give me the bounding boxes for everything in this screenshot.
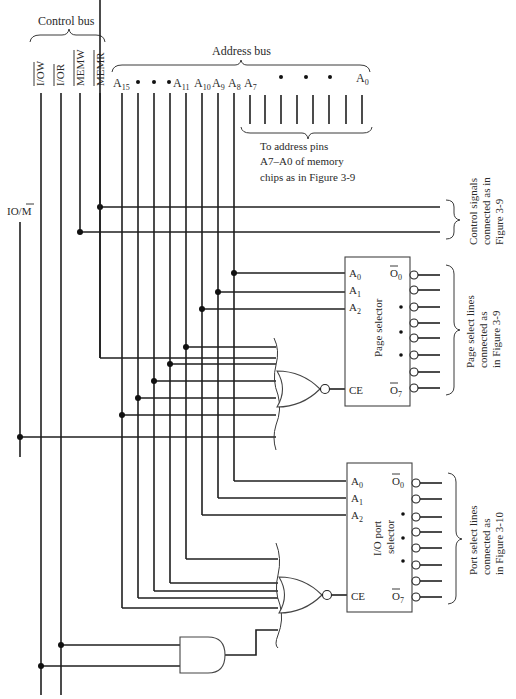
svg-text:connected as in: connected as in <box>480 177 492 245</box>
port-selector-outputs <box>412 479 442 601</box>
page-selector-outputs <box>410 271 440 392</box>
page-ce-label: CE <box>349 384 363 396</box>
control-bus-title: Control bus <box>38 14 95 28</box>
svg-text:A11: A11 <box>173 76 189 92</box>
low-address-note: To address pins A7–A0 of memory chips as… <box>260 140 356 183</box>
svg-text:A8: A8 <box>228 76 241 92</box>
address-bus-title: Address bus <box>212 44 271 58</box>
port-ce-label: CE <box>351 590 365 602</box>
svg-text:A10: A10 <box>194 76 211 92</box>
port-selector-title-1: I/O port <box>371 521 383 556</box>
io-memory-decoder-diagram: Control bus I/OW I/OR MEMW MEMR Address … <box>0 0 516 699</box>
svg-text:Control signals: Control signals <box>467 178 479 245</box>
page-selector-title: Page selector <box>372 298 384 357</box>
signal-ior: I/OR <box>54 63 66 86</box>
low-address-lines <box>250 95 362 124</box>
svg-text:Figure 3-9: Figure 3-9 <box>493 198 505 245</box>
port-select-brace <box>448 473 462 604</box>
port-select-note: Port select lines connected as in Figure… <box>467 505 505 575</box>
svg-text:in Figure 3-10: in Figure 3-10 <box>493 512 505 575</box>
page-nor-gate <box>277 371 345 407</box>
address-line-labels: A15 A11 A10 A9 A8 A7 A0 <box>113 71 369 92</box>
control-bus-lines <box>41 93 100 695</box>
control-signals-brace <box>446 200 460 239</box>
svg-text:Page select lines: Page select lines <box>464 295 476 368</box>
page-nor-bus-break <box>274 338 280 450</box>
page-select-brace <box>446 265 460 395</box>
signal-iow: I/OW <box>34 60 46 86</box>
and-to-port-nor-wire <box>225 630 278 655</box>
page-selector-box: A0 A1 A2 CE O0 O7 Page selector <box>345 257 410 406</box>
port-selector-address-wires <box>202 481 346 515</box>
control-signals-note: Control signals connected as in Figure 3… <box>467 177 505 245</box>
svg-text:Port select lines: Port select lines <box>467 505 479 575</box>
signal-memw: MEMW <box>74 49 86 86</box>
port-nor-input-wires <box>122 559 278 608</box>
svg-text:To address pins: To address pins <box>260 140 328 152</box>
svg-text:IO/M: IO/M <box>7 205 32 217</box>
svg-text:A7: A7 <box>244 76 257 92</box>
svg-text:connected as: connected as <box>480 519 492 576</box>
address-bus-brace <box>112 60 370 72</box>
page-select-note: Page select lines connected as in Figure… <box>464 295 502 368</box>
svg-text:chips as in Figure 3-9: chips as in Figure 3-9 <box>260 171 356 183</box>
port-nor-gate <box>279 577 347 613</box>
control-signal-labels: I/OW I/OR MEMW MEMR <box>34 49 106 86</box>
port-selector-box: A0 A1 A2 CE O0 O7 I/O port selector <box>347 463 412 612</box>
low-address-brace <box>241 127 372 139</box>
svg-text:A15: A15 <box>113 76 130 92</box>
port-selector-title-2: selector <box>384 519 396 554</box>
svg-text:A9: A9 <box>212 76 225 92</box>
svg-text:connected as: connected as <box>477 312 489 369</box>
page-selector-address-wires <box>202 273 345 309</box>
io-m-label: IO/M <box>7 204 34 217</box>
and-gate <box>38 637 225 673</box>
control-bus-brace <box>30 29 105 42</box>
svg-text:A0: A0 <box>356 71 369 87</box>
svg-text:A7–A0 of memory: A7–A0 of memory <box>260 155 344 167</box>
svg-text:in Figure 3-9: in Figure 3-9 <box>490 310 502 368</box>
high-address-lines <box>122 93 234 608</box>
control-signal-outputs <box>80 207 440 232</box>
